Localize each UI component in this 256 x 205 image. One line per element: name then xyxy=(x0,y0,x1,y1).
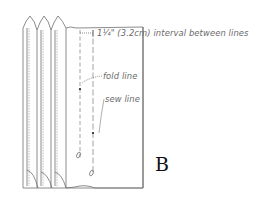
stacked-page-1 xyxy=(23,16,38,188)
interval-label: 1¼" (3.2cm) interval between lines xyxy=(97,28,249,38)
sew-line xyxy=(89,30,94,176)
sew-line-leader xyxy=(99,99,104,133)
figure-label: B xyxy=(155,155,169,174)
sewing-diagram: 1¼" (3.2cm) interval between lines fold … xyxy=(0,0,256,205)
fold-line-leader xyxy=(82,76,102,83)
stacked-page-3 xyxy=(51,16,66,188)
stacked-page-2 xyxy=(37,16,52,188)
fold-line xyxy=(76,30,81,158)
fold-line-label: fold line xyxy=(103,71,137,81)
sew-line-label: sew line xyxy=(105,94,140,104)
interval-dimension xyxy=(80,30,93,37)
